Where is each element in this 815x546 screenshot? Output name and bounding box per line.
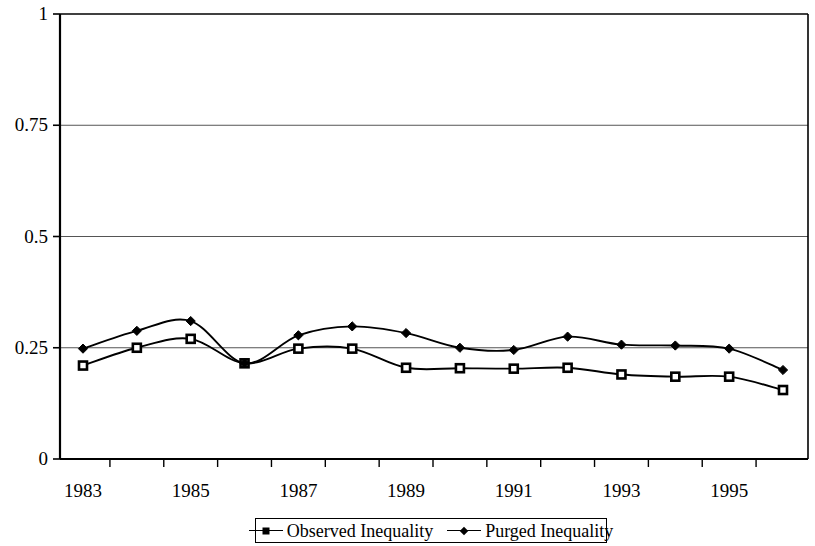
x-axis-label-1995: 1995 [684,481,774,500]
data-point-purged-1992 [563,332,572,341]
x-axis-label-1989: 1989 [361,481,451,500]
data-point-purged-1984 [132,326,141,335]
data-point-observed-1993 [617,370,625,378]
data-point-observed-1989 [402,364,410,372]
data-point-observed-1990 [456,364,464,372]
data-point-observed-1985 [187,335,195,343]
data-point-purged-1996 [778,365,787,374]
data-point-purged-1988 [348,322,357,331]
y-axis-label-1: 1 [0,4,48,23]
legend-entry-purged-inequality: Purged Inequality [447,522,613,540]
chart-legend: Observed Inequality Purged Inequality [255,518,607,543]
legend-label-observed-inequality: Observed Inequality [287,522,433,540]
data-point-purged-1983 [78,344,87,353]
data-point-observed-1995 [725,373,733,381]
data-point-observed-1992 [564,364,572,372]
data-point-purged-1987 [294,331,303,340]
y-axis-label-0.25: 0.25 [0,338,48,357]
data-point-observed-1991 [510,365,518,373]
data-point-purged-1990 [455,343,464,352]
data-point-purged-1985 [186,316,195,325]
x-axis-label-1991: 1991 [469,481,559,500]
diamond-marker-icon [447,524,481,538]
gridlines-group [60,14,808,348]
x-axis-label-1993: 1993 [576,481,666,500]
data-point-observed-1994 [671,373,679,381]
y-axis-label-0.75: 0.75 [0,115,48,134]
x-axis-ticks-group [110,459,756,467]
data-point-purged-1994 [671,341,680,350]
data-point-purged-1989 [401,328,410,337]
y-axis-label-0: 0 [0,449,48,468]
data-point-purged-1995 [725,344,734,353]
chart-canvas [0,0,815,546]
x-axis-label-1983: 1983 [38,481,128,500]
series-markers-group [78,316,787,394]
data-point-observed-1984 [133,344,141,352]
data-point-observed-1988 [348,345,356,353]
legend-label-purged-inequality: Purged Inequality [485,522,613,540]
y-axis-label-0.5: 0.5 [0,227,48,246]
x-axis-label-1985: 1985 [146,481,236,500]
data-point-observed-1983 [79,362,87,370]
data-point-observed-1996 [779,386,787,394]
legend-entry-observed-inequality: Observed Inequality [249,522,433,540]
square-marker-icon [249,524,283,538]
data-point-observed-1987 [294,345,302,353]
inequality-line-chart: 00.250.50.751 19831985198719891991199319… [0,0,815,546]
x-axis-label-1987: 1987 [253,481,343,500]
data-point-purged-1991 [509,345,518,354]
